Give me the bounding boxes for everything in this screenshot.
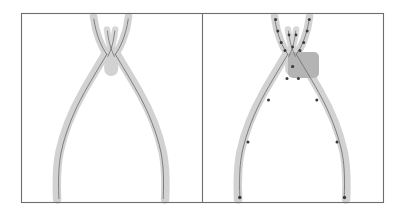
two-panel-figure-svg	[0, 0, 405, 216]
skeleton-node-marker	[291, 65, 294, 68]
skeleton-node-marker	[336, 141, 339, 144]
skeleton-node-marker	[291, 46, 294, 49]
skeleton-node-marker	[298, 49, 301, 52]
skeleton-node-marker	[343, 196, 346, 199]
skeleton-node-marker	[280, 41, 283, 44]
skeleton-node-marker	[247, 141, 250, 144]
skeleton-node-marker	[284, 49, 287, 52]
skeleton-node-marker	[286, 77, 289, 80]
skeleton-node-marker	[302, 41, 305, 44]
skeleton-node-marker	[276, 30, 279, 33]
skeleton-node-marker	[297, 77, 300, 80]
skeleton-node-marker	[238, 196, 241, 199]
skeleton-node-marker	[295, 34, 298, 37]
skeleton-node-marker	[315, 99, 318, 102]
skeleton-node-marker	[288, 34, 291, 37]
skeleton-node-marker	[267, 99, 270, 102]
figure-container	[0, 0, 405, 216]
skeleton-node-marker	[308, 18, 311, 21]
skeleton-node-marker	[274, 18, 277, 21]
skeleton-node-marker	[306, 30, 309, 33]
